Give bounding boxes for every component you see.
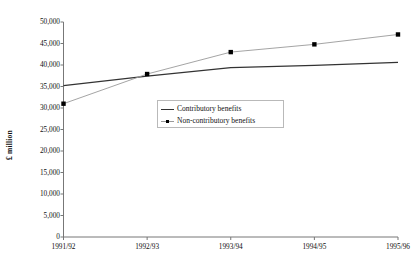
plot-area bbox=[0, 0, 412, 275]
line-swatch-icon bbox=[161, 104, 174, 114]
x-axis-tick-label: 1992/93 bbox=[135, 243, 159, 250]
legend-item-non-contributory: Non-contributory benefits bbox=[161, 115, 278, 127]
legend-label-non-contributory: Non-contributory benefits bbox=[177, 117, 255, 125]
x-axis-tick-label: 1991/92 bbox=[52, 243, 76, 250]
legend-item-contributory: Contributory benefits bbox=[161, 103, 278, 115]
x-axis-tick-label: 1995/96 bbox=[386, 243, 410, 250]
data-point-marker bbox=[312, 42, 316, 46]
series-line-contributory bbox=[64, 62, 399, 85]
data-point-marker bbox=[145, 72, 149, 76]
series-line-non-contributory bbox=[64, 34, 399, 103]
data-point-marker bbox=[396, 32, 400, 36]
data-point-marker bbox=[229, 50, 233, 54]
chart-figure: £ million 50,00045,00040,00035,00030,000… bbox=[0, 0, 412, 275]
x-axis-tick-label: 1994/95 bbox=[302, 243, 326, 250]
data-point-marker bbox=[61, 102, 65, 106]
line-marker-swatch-icon bbox=[161, 116, 174, 126]
chart-legend: Contributory benefits Non-contributory b… bbox=[157, 100, 284, 128]
legend-label-contributory: Contributory benefits bbox=[177, 105, 241, 113]
x-axis-tick-label: 1993/94 bbox=[219, 243, 243, 250]
